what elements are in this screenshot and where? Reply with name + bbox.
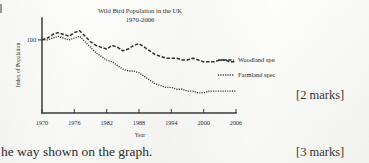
chart-title: Wild Bird Population in the UK — [98, 7, 182, 14]
x-tick-label: 2000 — [197, 119, 209, 126]
x-axis-ticks: 1970197619821988199420002006 — [36, 109, 242, 126]
y-tick-label: 100 — [27, 36, 36, 43]
x-tick-label: 1976 — [68, 119, 80, 126]
x-tick-label: 2006 — [230, 119, 242, 126]
x-axis-title: Year — [135, 132, 145, 138]
legend: Woodland species Farmland species — [218, 56, 275, 78]
legend-label-woodland: Woodland species — [238, 56, 275, 63]
chart-svg: Wild Bird Population in the UK 1970-2006… — [0, 0, 275, 150]
x-tick-label: 1994 — [165, 119, 177, 126]
series-line-woodland — [42, 31, 236, 62]
x-tick-label: 1988 — [133, 119, 145, 126]
marks-annotation-upper: [2 marks] — [296, 88, 344, 103]
x-tick-label: 1970 — [36, 119, 48, 126]
question-body-text: he way shown on the graph. — [1, 144, 152, 160]
x-tick-label: 1982 — [100, 119, 112, 126]
legend-label-farmland: Farmland species — [238, 71, 275, 78]
y-axis-ticks: 100 — [27, 36, 42, 43]
y-axis-title: Index of Population — [15, 43, 21, 88]
wild-bird-population-chart: Wild Bird Population in the UK 1970-2006… — [0, 0, 275, 150]
marks-annotation-lower: [3 marks] — [296, 145, 344, 160]
series-line-farmland — [42, 36, 236, 93]
chart-subtitle: 1970-2006 — [126, 16, 155, 23]
